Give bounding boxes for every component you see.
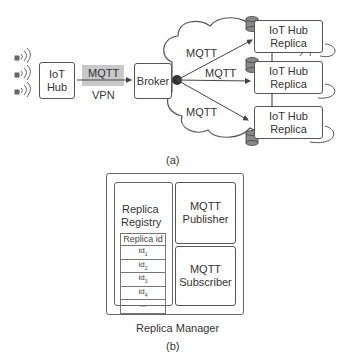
- broker-label: Broker: [137, 75, 169, 88]
- vpn-label: VPN: [92, 89, 115, 101]
- mqtt-publisher-box: MQTT Publisher: [175, 182, 236, 244]
- registry-row: id1: [121, 246, 166, 260]
- replica-box-2: IoT Hub Replica: [254, 61, 323, 94]
- replica-box-1: IoT Hub Replica: [254, 20, 323, 53]
- caption-a: (a): [166, 154, 179, 166]
- registry-row: ...: [121, 300, 166, 314]
- iot-hub-label-1: IoT: [47, 68, 67, 81]
- replica-box-3: IoT Hub Replica: [254, 106, 323, 139]
- caption-b: (b): [166, 340, 179, 352]
- replica-registry-label-1: Replica: [122, 203, 159, 215]
- mqtt-subscriber-box: MQTT Subscriber: [175, 246, 236, 306]
- wireless-devices-icon: [15, 48, 31, 97]
- cloud-mqtt-label-3: MQTT: [186, 106, 217, 118]
- registry-table-header: Replica id: [121, 234, 166, 246]
- publisher-label-1: MQTT: [183, 200, 229, 213]
- registry-row: id3: [121, 273, 166, 287]
- registry-row: id4: [121, 286, 166, 300]
- replica-2-label-1: IoT Hub: [269, 65, 308, 78]
- iot-hub-box: IoT Hub: [39, 62, 75, 99]
- replica-3-label-1: IoT Hub: [269, 110, 308, 123]
- replica-1-label-1: IoT Hub: [269, 24, 308, 37]
- replica-manager-label: Replica Manager: [136, 322, 219, 334]
- replica-2-label-2: Replica: [269, 78, 308, 91]
- subscriber-label-1: MQTT: [179, 263, 232, 276]
- registry-row: id2: [121, 259, 166, 273]
- subscriber-label-2: Subscriber: [179, 276, 232, 289]
- registry-table: Replica id id1 id2 id3 id4 ...: [120, 233, 166, 314]
- publisher-label-2: Publisher: [183, 213, 229, 226]
- cloud-mqtt-label-1: MQTT: [186, 47, 217, 59]
- replica-registry-label-2: Registry: [121, 216, 161, 228]
- replica-3-label-2: Replica: [269, 123, 308, 136]
- broker-box: Broker: [134, 63, 172, 99]
- mqtt-link-label: MQTT: [88, 67, 119, 79]
- iot-hub-label-2: Hub: [47, 81, 67, 94]
- cloud-mqtt-label-2: MQTT: [205, 67, 236, 79]
- replica-1-label-2: Replica: [269, 37, 308, 50]
